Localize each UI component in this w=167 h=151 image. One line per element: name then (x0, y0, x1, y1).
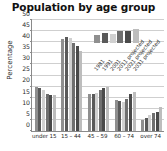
bar-fill (118, 101, 121, 131)
y-tick-label: 10 (22, 100, 30, 106)
bar-fill (106, 87, 109, 131)
bar (148, 115, 151, 131)
bar (53, 95, 56, 131)
x-tick-label: 45 – 59 (84, 133, 111, 139)
bar (72, 43, 75, 131)
y-tick-label: 25 (22, 66, 30, 72)
legend-swatch (125, 31, 131, 44)
x-tick-label: 60 – 74 (111, 133, 138, 139)
bar-fill (79, 51, 82, 131)
bar-fill (42, 90, 45, 131)
bar-fill (53, 95, 56, 131)
y-tick-label: 15 (22, 88, 30, 94)
bar-fill (159, 107, 162, 131)
chart-legend: 1981199120012011 projected2021 projected… (94, 29, 166, 79)
bar (145, 118, 148, 131)
bar (141, 120, 144, 131)
bar (88, 94, 91, 131)
bar (122, 102, 125, 131)
bar-fill (69, 38, 72, 131)
x-tick-label: 15 – 44 (58, 133, 85, 139)
bar (46, 94, 49, 131)
bar (95, 93, 98, 131)
bar-fill (35, 87, 38, 131)
bar (65, 37, 68, 131)
bar (125, 99, 128, 131)
bar-fill (49, 95, 52, 131)
y-tick-label: 40 (22, 33, 30, 39)
bar (152, 113, 155, 131)
bar (156, 112, 159, 131)
bar (118, 101, 121, 131)
bar-fill (65, 37, 68, 131)
x-tick-label: under 15 (31, 133, 58, 139)
legend-swatch (110, 34, 116, 43)
bar (115, 100, 118, 131)
bar (102, 88, 105, 131)
bar-fill (88, 94, 91, 131)
legend-swatch (133, 29, 139, 43)
bar (69, 38, 72, 131)
bar (42, 90, 45, 131)
bar-fill (46, 94, 49, 131)
bar-fill (38, 88, 41, 131)
bar-group (32, 20, 59, 131)
legend-swatch (94, 35, 100, 43)
y-tick-label: 45 (22, 22, 30, 28)
bar (76, 46, 79, 131)
bar-fill (122, 102, 125, 131)
bar (38, 88, 41, 131)
bar (35, 87, 38, 131)
y-tick-label: 35 (22, 44, 30, 50)
bar-fill (92, 94, 95, 131)
bar-fill (125, 99, 128, 131)
bar-fill (99, 90, 102, 131)
bar (61, 39, 64, 131)
bar-group (59, 20, 86, 131)
bar (159, 107, 162, 131)
y-tick-label: 5 (26, 111, 30, 117)
bar-fill (133, 92, 136, 131)
y-tick-label: 50 (22, 11, 30, 17)
bar (79, 51, 82, 131)
chart-container: Population by age group Percentage 05101… (0, 0, 167, 151)
bar (133, 92, 136, 131)
x-tick-label: over 74 (137, 133, 164, 139)
bar-fill (148, 115, 151, 131)
bar-fill (95, 93, 98, 131)
legend-swatch (117, 31, 123, 43)
y-tick-label: 0 (26, 122, 30, 128)
y-tick-label: 20 (22, 77, 30, 83)
bar (92, 94, 95, 131)
bar (106, 87, 109, 131)
bar-fill (141, 120, 144, 131)
bar-fill (61, 39, 64, 131)
bar-fill (102, 88, 105, 131)
bar-fill (156, 112, 159, 131)
bar-fill (129, 94, 132, 131)
bar (129, 94, 132, 131)
bar-fill (152, 113, 155, 131)
y-axis-label: Percentage (6, 29, 14, 91)
bar-fill (115, 100, 118, 131)
bar (49, 95, 52, 131)
legend-swatch (102, 33, 108, 43)
bar (99, 90, 102, 131)
bar-fill (72, 43, 75, 131)
bar-fill (76, 46, 79, 131)
y-tick-label: 30 (22, 55, 30, 61)
bar-fill (145, 118, 148, 131)
